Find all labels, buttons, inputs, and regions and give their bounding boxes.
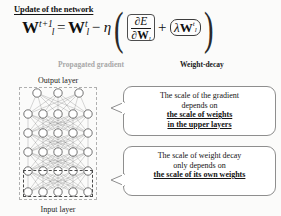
page-title: Update of the network	[14, 4, 93, 14]
gradient-scale-callout: The scale of the gradient depends on the…	[123, 86, 276, 136]
weight-decay-label: Weight-decay	[180, 60, 224, 69]
formula-plus: +	[158, 20, 166, 35]
formula-rhs-W: W	[68, 19, 85, 36]
gradient-numerator: ∂E	[135, 15, 148, 27]
formula-eta: η	[104, 20, 111, 35]
callout2-line1: The scale of weight decay	[124, 151, 275, 161]
decay-W: W	[180, 21, 193, 34]
callout1-line4: in the upper layers	[124, 120, 275, 130]
gradient-term-box: ∂E ∂Wl	[127, 14, 154, 41]
decay-subscript: l	[195, 26, 197, 34]
weight-decay-scale-callout: The scale of weight decay only depends o…	[123, 146, 276, 196]
weight-update-formula: Wt+1l = Wtl − η ( ∂E ∂Wl + λWtl )	[22, 14, 216, 41]
propagated-gradient-label: Propagated gradient	[58, 60, 124, 69]
callout-tail-icon	[110, 173, 125, 188]
gradient-denominator: ∂Wl	[131, 29, 150, 40]
input-layer-label: Input layer	[2, 205, 114, 214]
neural-network-diagram: Output layer	[2, 76, 114, 214]
slide-canvas: Update of the network Wt+1l = Wtl − η ( …	[0, 0, 281, 216]
formula-equals: =	[57, 20, 65, 35]
weight-decay-term-box: λWtl	[170, 19, 201, 36]
callout1-line3: the scale of weights	[124, 110, 275, 120]
gradient-denominator-var: W	[137, 29, 149, 40]
callout2-line3: the scale of its own weights	[124, 170, 275, 180]
gradient-numerator-var: E	[140, 15, 147, 27]
callout1-line2: depends on	[124, 101, 275, 111]
gradient-denominator-sub: l	[149, 35, 151, 40]
formula-lhs-W: W	[22, 19, 39, 36]
callout-tail-icon	[110, 101, 125, 116]
formula-minus: −	[92, 20, 100, 35]
callout1-line1: The scale of the gradient	[124, 91, 275, 101]
network-inner-dashed-box	[23, 170, 93, 197]
callout2-line2: only depends on	[124, 161, 275, 171]
